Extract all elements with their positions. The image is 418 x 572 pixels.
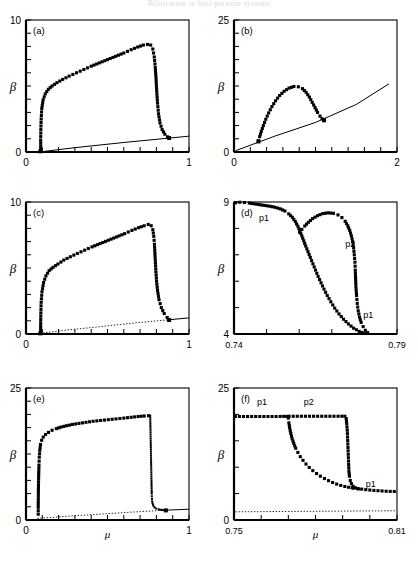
panel-f: 0.750.81025βμ(f)p1p2p1	[208, 382, 405, 542]
series-periodic-branch-arch	[257, 85, 325, 142]
y-tick-label: 4	[223, 329, 229, 340]
x-tick-label: 1	[186, 339, 192, 350]
x-axis-label: μ	[312, 528, 319, 540]
y-axis-label: β	[9, 79, 17, 94]
x-tick-label: 0	[231, 157, 237, 168]
panel-a: 01010β(a)	[0, 14, 197, 174]
y-tick-label: 25	[218, 15, 230, 26]
series-p1-plateau	[234, 415, 288, 418]
series-p2-descending	[345, 417, 360, 490]
series-p2-plateau	[288, 415, 347, 418]
y-axis-label: β	[9, 447, 17, 462]
branch-annotation: p1	[257, 397, 267, 407]
plot-e: 01025βμ(e)	[0, 382, 197, 542]
plot-frame	[234, 20, 397, 152]
panel-label: (a)	[33, 25, 45, 36]
y-axis-label: β	[217, 79, 225, 94]
plot-a: 01010β(a)	[0, 14, 197, 174]
panel-label: (b)	[241, 25, 253, 36]
y-tick-label: 9	[223, 197, 229, 208]
series-unstable-steady-state	[37, 510, 165, 518]
x-tick-label: 0	[23, 339, 29, 350]
series-periodic-branch-upper	[37, 414, 150, 516]
panel-e: 01025βμ(e)	[0, 382, 197, 542]
series-p2-loop	[298, 211, 369, 334]
plot-f: 0.750.81025βμ(f)p1p2p1	[208, 382, 405, 542]
y-tick-label: 0	[15, 147, 21, 158]
series-unstable-steady-state	[40, 320, 169, 334]
branch-annotation: p1	[366, 479, 376, 489]
plot-d: 0.740.7949β(d)p1p2p1	[208, 196, 405, 356]
series-periodic-branch-upper	[39, 223, 171, 333]
panel-label: (e)	[33, 393, 45, 404]
branch-annotation: p2	[345, 239, 355, 249]
series-periodic-branch-upper	[39, 43, 171, 150]
y-tick-label: 0	[223, 515, 229, 526]
series-steady-state-line	[39, 136, 189, 152]
x-tick-label: 0.79	[388, 340, 406, 350]
y-tick-label: 10	[10, 197, 22, 208]
x-tick-label: 0.75	[225, 526, 243, 536]
x-tick-label: 0.74	[225, 340, 243, 350]
x-axis-label: μ	[104, 528, 111, 540]
plot-frame	[234, 388, 397, 520]
branch-annotation: p1	[363, 310, 373, 320]
x-tick-label: 1	[186, 525, 192, 536]
panel-label: (d)	[241, 207, 253, 218]
branch-annotation: p2	[304, 397, 314, 407]
plot-b: 02025β(b)	[208, 14, 405, 174]
series-p1-descending	[287, 417, 354, 490]
plot-c: 01010β(c)	[0, 196, 197, 356]
panel-b: 02025β(b)	[208, 14, 405, 174]
y-tick-label: 10	[10, 15, 22, 26]
y-axis-label: β	[9, 261, 17, 276]
y-axis-label: β	[217, 447, 225, 462]
panel-c: 01010β(c)	[0, 196, 197, 356]
y-tick-label: 25	[218, 383, 230, 394]
y-tick-label: 0	[15, 329, 21, 340]
branch-annotation: p1	[259, 213, 269, 223]
plot-frame	[26, 388, 189, 520]
series-stable-steady-state	[169, 318, 189, 320]
y-tick-label: 25	[10, 383, 22, 394]
x-tick-label: 0.81	[388, 526, 406, 536]
panel-d: 0.740.7949β(d)p1p2p1	[208, 196, 405, 356]
y-axis-label: β	[217, 261, 225, 276]
running-head: Bifurcation in host-parasite systems	[0, 0, 418, 8]
y-tick-label: 0	[15, 515, 21, 526]
panel-label: (f)	[241, 393, 250, 404]
x-tick-label: 0	[23, 157, 29, 168]
series-stable-steady-state	[165, 509, 189, 510]
x-tick-label: 1	[186, 157, 192, 168]
x-tick-label: 0	[23, 525, 29, 536]
y-tick-label: 0	[223, 147, 229, 158]
series-unstable-steady-state	[235, 511, 395, 512]
series-branch-point-marker	[164, 508, 168, 512]
series-vertical-drop-dense	[149, 415, 165, 511]
panel-label: (c)	[33, 207, 44, 218]
x-tick-label: 2	[394, 157, 400, 168]
